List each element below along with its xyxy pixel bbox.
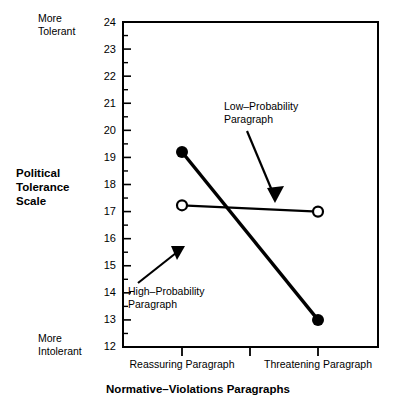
chart-figure: More Tolerant More Intolerant Political … [0, 0, 396, 408]
high-probability-arrow-icon [138, 246, 185, 283]
series-low-probability [177, 200, 323, 216]
data-point-marker [312, 314, 324, 326]
data-point-marker [313, 207, 323, 217]
low-probability-annotation: Low–Probability Paragraph [224, 100, 298, 125]
x-axis-title: Normative–Violations Paragraphs [0, 383, 396, 395]
data-point-marker [177, 200, 187, 210]
plot-canvas [0, 0, 396, 408]
low-probability-arrow-icon [247, 131, 284, 203]
x-tick-label-threatening: Threatening Paragraph [258, 359, 378, 370]
x-tick-label-reassuring: Reassuring Paragraph [122, 359, 242, 370]
x-axis-ticks [182, 347, 318, 356]
high-probability-annotation: High–Probability Paragraph [128, 285, 204, 310]
series-line-low-probability [182, 205, 318, 211]
data-point-marker [176, 146, 188, 158]
